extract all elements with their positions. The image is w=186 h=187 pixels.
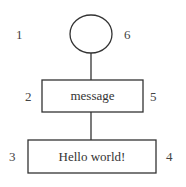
message-right-number: 5 [150,89,157,104]
message-node-label: message [70,88,114,103]
root-node-circle [70,15,112,53]
message-left-number: 2 [25,89,32,104]
root-left-number: 1 [16,27,23,42]
hello-node-label: Hello world! [59,149,126,164]
hello-right-number: 4 [166,149,173,164]
root-right-number: 6 [124,27,131,42]
hello-left-number: 3 [9,149,16,164]
tree-diagram: 1 6 message 2 5 Hello world! 3 4 [0,0,186,187]
